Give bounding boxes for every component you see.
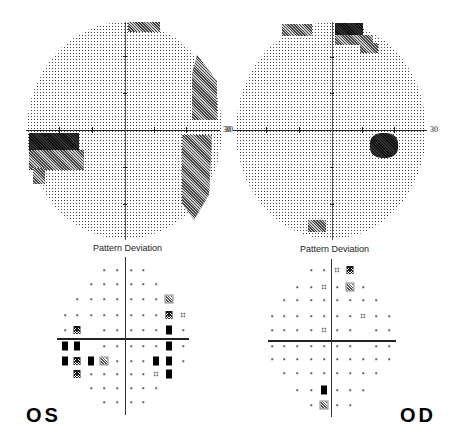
pd-normal-dot xyxy=(90,373,92,375)
pd-normal-dot xyxy=(349,315,351,317)
pd-normal-dot xyxy=(90,283,92,285)
os-defect-nasal-inferior xyxy=(182,135,212,220)
os-tick xyxy=(92,127,93,133)
os-eye-label: OS xyxy=(26,404,61,427)
pd-normal-dot xyxy=(375,345,377,347)
pd-normal-dot xyxy=(296,345,298,347)
pd-normal-dot xyxy=(116,298,118,300)
pd-normal-dot xyxy=(271,345,273,347)
pd-normal-dot xyxy=(388,358,390,360)
pd-normal-dot xyxy=(64,314,66,316)
od-tick xyxy=(330,57,334,58)
od-horizontal-axis xyxy=(233,130,427,131)
pd-normal-dot xyxy=(336,389,338,391)
pd-p05-symbol xyxy=(153,357,159,366)
pd-normal-dot xyxy=(388,329,390,331)
pd-normal-dot xyxy=(336,345,338,347)
os-pattern-deviation-title: Pattern Deviation xyxy=(93,243,162,253)
pd-normal-dot xyxy=(336,358,338,360)
pd-normal-dot xyxy=(296,315,298,317)
pd-p05-symbol xyxy=(321,386,327,395)
pd-normal-dot xyxy=(310,372,312,374)
pd-p05-symbol xyxy=(62,342,68,351)
pd-normal-dot xyxy=(130,329,132,331)
pd-p05-symbol xyxy=(88,357,94,366)
pd-p2-symbol xyxy=(165,295,174,304)
pd-normal-dot xyxy=(116,314,118,316)
pd-normal-dot xyxy=(323,299,325,301)
pd-normal-dot xyxy=(103,329,105,331)
pd-normal-dot xyxy=(130,314,132,316)
pd-normal-dot xyxy=(130,283,132,285)
pd-normal-dot xyxy=(296,286,298,288)
pd-normal-dot xyxy=(90,387,92,389)
pd-normal-dot xyxy=(116,283,118,285)
pd-normal-dot xyxy=(76,314,78,316)
os-pd-vertical-axis xyxy=(125,257,126,415)
os-defect-superior xyxy=(128,22,160,32)
pd-p5-symbol xyxy=(322,328,327,333)
pd-normal-dot xyxy=(103,387,105,389)
pd-normal-dot xyxy=(142,298,144,300)
pd-normal-dot xyxy=(271,315,273,317)
pd-normal-dot xyxy=(155,298,157,300)
pd-p1-symbol xyxy=(74,370,81,378)
os-defect-nasal-superior xyxy=(192,55,217,120)
pd-normal-dot xyxy=(310,358,312,360)
od-defect-inferior xyxy=(308,220,326,232)
pd-normal-dot xyxy=(310,404,312,406)
od-tick xyxy=(330,204,334,205)
pd-normal-dot xyxy=(142,387,144,389)
os-tick xyxy=(123,93,127,94)
pd-normal-dot xyxy=(155,283,157,285)
pd-normal-dot xyxy=(310,269,312,271)
pd-normal-dot xyxy=(283,372,285,374)
pd-normal-dot xyxy=(271,358,273,360)
pd-normal-dot xyxy=(336,315,338,317)
os-vertical-axis xyxy=(125,22,126,240)
pd-normal-dot xyxy=(116,360,118,362)
pd-normal-dot xyxy=(323,269,325,271)
pd-p05-symbol xyxy=(166,342,172,351)
od-blind-spot xyxy=(370,133,398,158)
od-axis-label-30-left: 30 xyxy=(225,125,233,134)
pd-normal-dot xyxy=(116,345,118,347)
os-defect-temporal-edge xyxy=(33,168,45,184)
pd-normal-dot xyxy=(310,345,312,347)
pd-normal-dot xyxy=(336,299,338,301)
pd-normal-dot xyxy=(349,389,351,391)
pd-normal-dot xyxy=(388,345,390,347)
pd-normal-dot xyxy=(375,299,377,301)
pd-normal-dot xyxy=(375,372,377,374)
pd-p05-symbol xyxy=(166,370,172,379)
pd-normal-dot xyxy=(103,283,105,285)
os-tick xyxy=(123,204,127,205)
pd-normal-dot xyxy=(323,358,325,360)
pd-normal-dot xyxy=(349,329,351,331)
pd-normal-dot xyxy=(90,298,92,300)
od-vertical-axis xyxy=(332,22,333,240)
od-axis-label-30-right: 30 xyxy=(430,125,438,134)
pd-normal-dot xyxy=(142,329,144,331)
pd-p2-symbol xyxy=(100,357,109,366)
pd-p05-symbol xyxy=(166,326,172,335)
pd-normal-dot xyxy=(362,372,364,374)
os-pd-horizontal-axis xyxy=(57,338,189,340)
od-defect-superior-tail xyxy=(360,43,378,53)
pd-normal-dot xyxy=(362,389,364,391)
pd-normal-dot xyxy=(375,315,377,317)
pd-normal-dot xyxy=(349,372,351,374)
pd-normal-dot xyxy=(130,373,132,375)
od-defect-superior-left xyxy=(282,24,312,36)
pd-normal-dot xyxy=(103,269,105,271)
pd-normal-dot xyxy=(142,373,144,375)
pd-normal-dot xyxy=(310,286,312,288)
pd-normal-dot xyxy=(103,401,105,403)
pd-normal-dot xyxy=(142,269,144,271)
pd-normal-dot xyxy=(310,389,312,391)
pd-normal-dot xyxy=(103,373,105,375)
os-tick xyxy=(123,167,127,168)
od-tick xyxy=(394,127,395,133)
pd-p05-symbol xyxy=(166,357,172,366)
pd-normal-dot xyxy=(362,299,364,301)
